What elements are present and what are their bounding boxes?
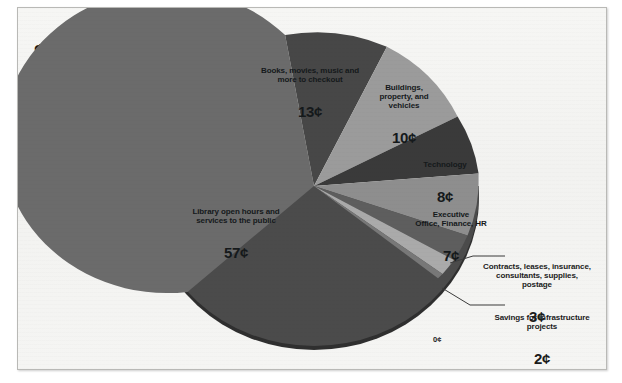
slice-value-savings: 2¢ bbox=[482, 351, 602, 368]
slice-caption-buildings: Buildings, property, and vehicles bbox=[358, 84, 450, 111]
slice-label-savings: Savings for infrastructure projects 2¢ bbox=[482, 296, 602, 370]
slice-caption-library: Library open hours and services to the p… bbox=[156, 208, 316, 226]
slice-caption-savings: Savings for infrastructure projects bbox=[482, 314, 602, 332]
slice-caption-contracts: Contracts, leases, insurance, consultant… bbox=[473, 263, 601, 290]
pie-chart: Library open hours and services to the p… bbox=[18, 8, 606, 369]
slice-value-zero: 0¢ bbox=[433, 335, 441, 344]
slice-caption-technology: Technology bbox=[402, 161, 488, 170]
slice-value-library: 57¢ bbox=[156, 245, 316, 262]
scanned-page-frame: $1 in taxes = bbox=[17, 7, 607, 370]
slice-label-library: Library open hours and services to the p… bbox=[156, 190, 316, 279]
screenshot-canvas: $1 in taxes = bbox=[0, 0, 622, 383]
slice-caption-executive: Executive Office, Finance, HR bbox=[396, 211, 506, 229]
